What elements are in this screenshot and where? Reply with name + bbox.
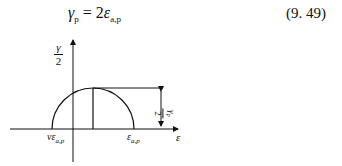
y-label-numerator: γ	[54, 42, 63, 53]
height-label: γp 2	[154, 108, 177, 118]
left-point-label: νεa,p	[47, 131, 64, 145]
right-label-sub: a,p	[131, 137, 140, 145]
right-point-label: εa,p	[127, 131, 140, 145]
height-label-denominator: 2	[154, 108, 163, 118]
left-label-sub: a,p	[55, 137, 64, 145]
y-label-denominator: 2	[54, 56, 63, 67]
height-label-numerator: γp	[164, 108, 177, 118]
y-axis-label: γ 2	[54, 42, 63, 67]
height-sub: p	[166, 114, 172, 117]
x-axis-label: ε	[176, 131, 180, 143]
